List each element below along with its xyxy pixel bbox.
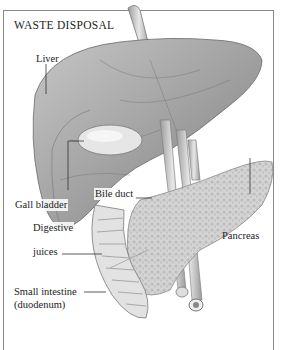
label-small-intestine-line2: (duodenum) <box>14 299 65 311</box>
label-pancreas: Pancreas <box>222 230 259 242</box>
pancreas-shape <box>127 161 273 295</box>
gall-bladder-shape <box>78 125 142 155</box>
label-digestive-juices-line2: juices <box>32 246 59 258</box>
label-small-intestine-line1: Small intestine <box>14 286 77 298</box>
diagram-title: WASTE DISPOSAL <box>14 19 114 31</box>
label-bile-duct: Bile duct <box>94 188 134 200</box>
label-digestive-juices-line1: Digestive <box>32 222 74 234</box>
label-gall-bladder: Gall bladder <box>14 199 68 211</box>
label-liver: Liver <box>36 53 59 65</box>
